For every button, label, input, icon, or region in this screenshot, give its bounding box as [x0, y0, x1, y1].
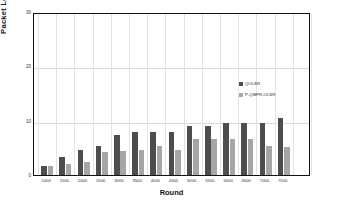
bar — [150, 132, 156, 175]
bar — [211, 139, 217, 175]
bar — [284, 147, 290, 175]
bar — [41, 166, 47, 175]
plot-area: QOLSR P-QMPR-OLSR — [33, 13, 310, 176]
legend-item-series-1: P-QMPR-OLSR — [239, 92, 275, 97]
bar — [139, 150, 145, 175]
bar-group — [165, 14, 183, 175]
bar — [266, 146, 272, 175]
gridline-x-15 — [311, 14, 312, 175]
y-tick-30: 30 — [18, 10, 31, 15]
x-axis-title: Round — [33, 188, 310, 197]
bar — [132, 132, 138, 175]
bar-group — [184, 14, 202, 175]
bar-group — [147, 14, 165, 175]
y-tick-20: 20 — [18, 64, 31, 69]
bar — [278, 118, 284, 175]
bar — [84, 162, 90, 175]
bar — [114, 135, 120, 175]
bar — [230, 139, 236, 175]
bar — [248, 139, 254, 175]
bar — [223, 123, 229, 175]
chart-figure: Packet Loss rate % 0102030 QOLSR P-QMPR-… — [0, 0, 338, 213]
bar-group — [56, 14, 74, 175]
legend-swatch-pqmpr-olsr — [239, 93, 243, 97]
bar — [175, 150, 181, 175]
chart-legend: QOLSR P-QMPR-OLSR — [239, 81, 275, 103]
bar — [241, 123, 247, 175]
y-tick-0: 0 — [18, 173, 31, 178]
legend-item-series-0: QOLSR — [239, 81, 275, 86]
bar-group — [111, 14, 129, 175]
bar-group — [129, 14, 147, 175]
bar-group — [202, 14, 220, 175]
bar — [205, 126, 211, 175]
legend-label-pqmpr-olsr: P-QMPR-OLSR — [245, 92, 275, 97]
bar-group — [93, 14, 111, 175]
bar-group — [275, 14, 293, 175]
bar-group — [74, 14, 92, 175]
y-tick-10: 10 — [18, 119, 31, 124]
x-axis-tick-labels: 1000150020002500300035004000450050005500… — [33, 178, 310, 187]
bar — [157, 146, 163, 175]
bar — [102, 152, 108, 175]
y-axis-title: Packet Loss rate % — [0, 0, 8, 52]
bar — [193, 139, 199, 175]
bar — [169, 132, 175, 175]
legend-label-qolsr: QOLSR — [245, 81, 260, 86]
bar — [66, 164, 72, 175]
bar — [187, 126, 193, 175]
bar — [48, 166, 54, 175]
bar — [96, 146, 102, 175]
bar — [120, 151, 126, 175]
bar-group — [220, 14, 238, 175]
bar-group — [38, 14, 56, 175]
x-tick-7500: 7500 — [272, 178, 294, 183]
bar — [260, 123, 266, 175]
bar — [59, 157, 65, 175]
legend-swatch-qolsr — [239, 82, 243, 86]
bar — [78, 150, 84, 175]
